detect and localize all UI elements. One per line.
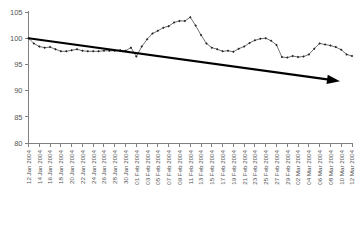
trend-arrow-head (326, 75, 340, 84)
x-axis-tick-label: 09 Feb 2004 (176, 149, 183, 184)
y-axis-tick-label: 80 (14, 139, 22, 148)
data-point-marker (227, 50, 230, 53)
data-point-marker (259, 37, 262, 40)
x-axis-tick-label: 12 Jan 2004 (25, 149, 32, 184)
x-axis-tick-label: 04 Mar 2004 (305, 149, 312, 184)
data-point-marker (97, 50, 100, 53)
x-axis-tick-label: 20 Jan 2004 (68, 149, 75, 184)
x-axis-tick-label: 06 Mar 2004 (316, 149, 323, 184)
data-point-marker (60, 50, 63, 53)
x-axis-tick-label: 07 Feb 2004 (165, 149, 172, 184)
x-axis-tick-label: 03 Feb 2004 (144, 149, 151, 184)
x-axis-tick-label: 26 Jan 2004 (100, 149, 107, 184)
data-point-marker (216, 48, 219, 51)
x-axis-tick-label: 29 Feb 2004 (284, 149, 291, 184)
y-axis-tick-label: 85 (14, 113, 22, 122)
data-point-marker (54, 48, 57, 51)
trend-arrow-shaft (29, 38, 330, 79)
x-axis-tick-label: 27 Feb 2004 (273, 149, 280, 184)
y-axis-tick-label: 100 (10, 34, 23, 43)
data-point-marker (43, 46, 46, 49)
data-point-marker (65, 50, 68, 53)
x-axis-tick-label: 12 Mar 2004 (348, 149, 355, 184)
data-point-marker (81, 50, 84, 53)
data-point-marker (329, 44, 332, 47)
y-axis-tick-label: 90 (14, 86, 22, 95)
data-point-marker (286, 56, 289, 59)
data-point-marker (335, 46, 338, 49)
data-point-marker (103, 50, 106, 53)
data-point-marker (221, 50, 224, 53)
x-axis-tick-label: 13 Feb 2004 (197, 149, 204, 184)
x-axis-tick-label: 25 Feb 2004 (262, 149, 269, 184)
y-axis-tick-label: 105 (10, 8, 23, 17)
data-point-marker (281, 56, 284, 59)
data-point-marker (254, 39, 257, 42)
data-point-marker (76, 48, 79, 51)
y-axis-tick-label: 95 (14, 60, 22, 69)
x-axis-tick-label: 24 Jan 2004 (90, 149, 97, 184)
data-point-marker (264, 37, 267, 40)
data-point-marker (324, 43, 327, 46)
line-chart: 8085909510010512 Jan 200414 Jan 200416 J… (0, 0, 360, 242)
x-axis-tick-label: 17 Feb 2004 (219, 149, 226, 184)
x-axis-tick-label: 21 Feb 2004 (241, 149, 248, 184)
data-point-marker (297, 56, 300, 59)
data-point-marker (302, 55, 305, 58)
x-axis-tick-label: 30 Jan 2004 (122, 149, 129, 184)
x-axis-tick-label: 16 Jan 2004 (46, 149, 53, 184)
x-axis-tick-label: 05 Feb 2004 (154, 149, 161, 184)
x-axis-tick-label: 01 Feb 2004 (133, 149, 140, 184)
x-axis-tick-label: 23 Feb 2004 (251, 149, 258, 184)
chart-plot-area: 8085909510010512 Jan 200414 Jan 200416 J… (0, 0, 360, 242)
x-axis-tick-label: 14 Jan 2004 (36, 149, 43, 184)
data-series-line (29, 17, 353, 57)
x-axis-tick-label: 15 Feb 2004 (208, 149, 215, 184)
x-axis-tick-label: 02 Mar 2004 (294, 149, 301, 184)
x-axis-tick-label: 10 Mar 2004 (338, 149, 345, 184)
data-point-marker (178, 20, 181, 23)
x-axis-tick-label: 08 Mar 2004 (327, 149, 334, 184)
data-point-marker (291, 55, 294, 58)
x-axis-tick-label: 11 Feb 2004 (187, 149, 194, 184)
x-axis-tick-label: 19 Feb 2004 (230, 149, 237, 184)
x-axis-tick-label: 28 Jan 2004 (111, 149, 118, 184)
data-point-marker (87, 50, 90, 53)
data-point-marker (92, 50, 95, 53)
data-point-marker (351, 55, 354, 58)
x-axis-tick-label: 22 Jan 2004 (79, 149, 86, 184)
data-point-marker (70, 49, 73, 52)
x-axis-tick-label: 18 Jan 2004 (57, 149, 64, 184)
data-point-marker (49, 46, 52, 49)
